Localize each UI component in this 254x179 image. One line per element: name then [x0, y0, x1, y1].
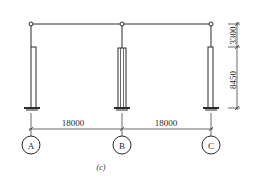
- axis-label-c: C: [208, 141, 214, 151]
- hinge-a: [29, 22, 33, 26]
- span-label-bc: 18000: [155, 118, 178, 128]
- column-c: [203, 24, 219, 129]
- axis-label-a: A: [28, 141, 35, 151]
- height-label-upper: 3300: [228, 26, 238, 45]
- height-label-lower: 8450: [228, 71, 238, 90]
- hinge-b: [120, 22, 124, 26]
- axis-label-b: B: [119, 141, 125, 151]
- span-dimension: [29, 127, 213, 136]
- span-label-ab: 18000: [62, 118, 85, 128]
- column-b: [114, 24, 130, 129]
- figure-caption: (c): [97, 163, 106, 172]
- frame-diagram: 3300 8450 18000 18000 A B C (c): [0, 0, 254, 179]
- column-a: [24, 24, 40, 129]
- hinge-c: [209, 22, 213, 26]
